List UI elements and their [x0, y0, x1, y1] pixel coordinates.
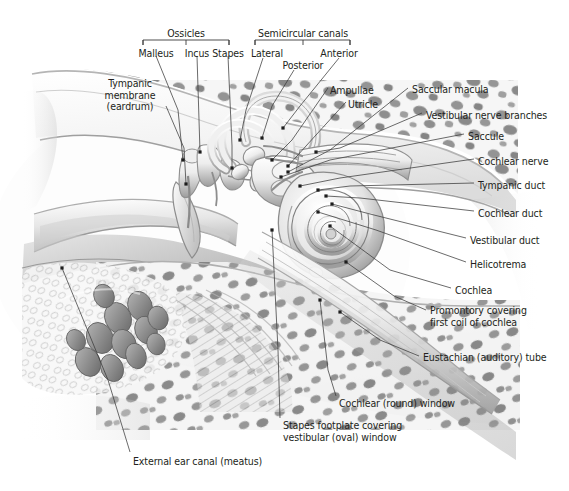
label-cochlear-nerve: Cochlear nerve [478, 156, 548, 168]
leader-tympanic-membrane-dot [184, 182, 187, 185]
leader-tympanic-membrane [166, 106, 186, 184]
label-vestibular-nerve-branches: Vestibular nerve branches [426, 110, 547, 122]
leader-eustachian [340, 312, 419, 356]
leader-cochlear-duct [326, 196, 474, 211]
leader-cochlear-nerve-dot [298, 184, 301, 187]
leader-saccule-dot [279, 175, 282, 178]
leader-ampullae [272, 88, 328, 160]
label-anterior: Anterior [259, 48, 419, 60]
leader-stapes-footplate-dot [270, 228, 273, 231]
leader-tympanic-duct [318, 183, 474, 190]
leader-round-window [320, 300, 336, 396]
bracket-ossicles [143, 40, 229, 45]
leader-cochlear-nerve [300, 159, 474, 186]
label-tympanic-duct: Tympanic duct [478, 180, 545, 192]
label-vestibular-duct: Vestibular duct [470, 235, 539, 247]
label-eustachian-tube: Eustachian (auditory) tube [423, 352, 547, 364]
label-helicotrema: Helicotrema [470, 259, 526, 271]
leader-helicotrema-dot [316, 210, 319, 213]
label-cochlear-round-window: Cochlear (round) window [339, 398, 455, 410]
leader-external-canal [62, 268, 130, 452]
leader-eustachian-dot [338, 310, 341, 313]
leader-posterior-dot [260, 136, 263, 139]
leader-vestibular-duct [332, 204, 466, 238]
leader-incus-dot [198, 150, 201, 153]
bracket-semicircular-canals [255, 40, 350, 45]
leader-dots [60, 126, 347, 313]
leader-promontory-dot [344, 260, 347, 263]
leader-lines [62, 56, 474, 452]
leader-vestibular-nerve-dot [314, 150, 317, 153]
group-brackets [143, 40, 350, 45]
leader-anterior-dot [281, 126, 284, 129]
label-external-ear-canal: External ear canal (meatus) [133, 456, 262, 468]
leader-vestibular-duct-dot [330, 202, 333, 205]
leader-promontory [346, 262, 426, 310]
label-cochlear-duct: Cochlear duct [478, 208, 542, 220]
group-label-semicircular-canals: Semicircular canals [213, 28, 393, 40]
leader-ampullae-dot [270, 158, 273, 161]
label-stapes-footplate: Stapes footplate coveringvestibular (ova… [283, 420, 402, 443]
leader-cochlear-duct-dot [324, 194, 327, 197]
label-tympanic-membrane: Tympanicmembrane(eardrum) [50, 78, 210, 113]
ear-anatomy-figure: OssiclesSemicircular canalsMalleusIncusS… [0, 0, 569, 491]
leader-external-canal-dot [60, 266, 63, 269]
leader-utricle-dot [286, 164, 289, 167]
leader-stapes [228, 56, 232, 168]
leader-posterior [262, 70, 294, 138]
leader-stapes-dot [230, 166, 233, 169]
label-promontory: Promontory coveringfirst coil of cochlea [430, 305, 527, 328]
leader-malleus-dot [181, 158, 184, 161]
leader-saccule [281, 134, 464, 177]
leader-saccular-macula-dot [286, 170, 289, 173]
leader-round-window-dot [318, 298, 321, 301]
leader-tympanic-duct-dot [316, 188, 319, 191]
label-cochlea: Cochlea [455, 285, 492, 297]
label-ampullae: Ampullae [330, 85, 374, 97]
label-saccule: Saccule [468, 131, 504, 143]
leader-cochlea-dot [328, 224, 331, 227]
label-saccular-macula: Saccular macula [412, 84, 489, 96]
leader-lateral-dot [238, 138, 241, 141]
label-utricle: Utricle [348, 99, 378, 111]
leader-stapes-footplate [272, 230, 280, 418]
label-posterior: Posterior [223, 60, 383, 72]
